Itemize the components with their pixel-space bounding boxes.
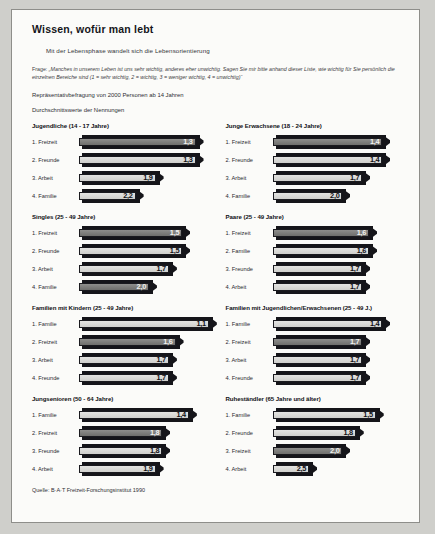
chart-row: 1. Freizeit1,6 [226,226,410,241]
chart-row-label: 1. Familie [32,321,79,327]
chart-group-title: Familien mit Kindern (25 - 49 Jahre) [32,304,216,311]
chart-bar: 1,7 [273,372,363,384]
sample-note: Repräsentativbefragung von 2000 Personen… [32,92,405,98]
chart-bar: 1,7 [79,372,169,384]
chart-bar-face [79,356,169,364]
chart-row-label: 4. Familie [32,193,79,199]
chart-bar-face [79,320,209,328]
chart-bar-arrow-tip [162,444,170,458]
chart-bar-value: 1,3 [183,138,192,145]
chart-bar-value: 1,7 [157,374,166,381]
chart-grid: Jugendliche (14 - 17 Jahre)1. Freizeit1,… [12,122,419,477]
chart-row: 2. Freunde1,8 [226,426,410,441]
chart-row: 2. Freizeit1,8 [32,426,216,441]
chart-bar: 1,6 [79,336,176,348]
chart-group: Paare (25 - 49 Jahre)1. Freizeit1,62. Fa… [226,213,410,295]
page-subtitle: Mit der Lebensphase wandelt sich die Leb… [46,47,405,54]
chart-bar: 1,9 [79,172,156,184]
chart-bar: 1,3 [79,154,196,166]
chart-bar-track: 1,8 [79,444,216,459]
chart-bar-value: 1,4 [370,156,379,163]
chart-bar-face [273,356,363,364]
chart-group: Jugendliche (14 - 17 Jahre)1. Freizeit1,… [32,122,216,204]
chart-bar-face [79,156,196,164]
chart-bar-arrow-tip [356,426,364,440]
chart-bar-arrow-tip [362,371,370,385]
chart-bar-value: 1,7 [350,374,359,381]
chart-group-title: Jugendliche (14 - 17 Jahre) [32,122,216,129]
chart-row: 3. Freunde1,8 [32,444,216,459]
chart-group: Familien mit Jugendlichen/Erwachsenen (2… [226,304,410,386]
header: Wissen, wofür man lebt Mit der Lebenspha… [12,10,419,113]
chart-bar: 1,8 [79,427,162,439]
chart-bar: 2,0 [79,281,149,293]
chart-row-label: 1. Familie [226,321,273,327]
chart-row-label: 1. Freizeit [32,139,79,145]
chart-row-label: 3. Freunde [226,266,273,272]
chart-bar-value: 1,7 [350,174,359,181]
chart-bar-value: 2,0 [330,192,339,199]
chart-row-label: 2. Freizeit [226,339,273,345]
chart-bar: 1,7 [79,263,169,275]
chart-bar-track: 1,4 [273,135,410,150]
page-title: Wissen, wofür man lebt [32,23,405,35]
chart-bar-arrow-tip [382,135,390,149]
chart-bar-arrow-tip [362,353,370,367]
chart-bar-arrow-tip [382,317,390,331]
chart-bar: 1,8 [79,445,162,457]
chart-group: Singles (25 - 49 Jahre)1. Freizeit1,52. … [32,213,216,295]
chart-row-label: 2. Freizeit [32,339,79,345]
chart-row-label: 1. Familie [226,412,273,418]
chart-bar: 1,4 [273,154,383,166]
chart-bar-track: 1,7 [273,335,410,350]
chart-group-title: Junge Erwachsene (18 - 24 Jahre) [226,122,410,129]
chart-row: 4. Freunde1,7 [226,371,410,386]
chart-bar-track: 1,9 [79,462,216,477]
chart-bar: 1,5 [273,409,376,421]
chart-group-rows: 1. Familie1,42. Freizeit1,83. Freunde1,8… [32,408,216,477]
chart-bar-value: 1,3 [183,156,192,163]
chart-bar-track: 1,8 [79,426,216,441]
chart-bar-face [273,247,370,255]
chart-bar: 1,6 [273,227,370,239]
chart-bar: 1,7 [79,354,169,366]
chart-row-label: 4. Familie [32,284,79,290]
chart-bar: 2,5 [273,463,310,475]
chart-bar-value: 1,9 [143,465,152,472]
chart-row-label: 4. Arbeit [32,466,79,472]
chart-bar-arrow-tip [369,226,377,240]
chart-bar-track: 1,4 [273,153,410,168]
chart-row: 4. Familie2,0 [226,189,410,204]
chart-bar-track: 1,1 [79,317,216,332]
chart-bar-face [273,320,383,328]
chart-bar: 1,7 [273,336,363,348]
chart-bar-value: 2,2 [123,192,132,199]
chart-bar-value: 2,0 [330,447,339,454]
chart-bar-value: 1,8 [150,429,159,436]
chart-bar-arrow-tip [362,335,370,349]
chart-bar-track: 2,2 [79,189,216,204]
chart-bar-track: 1,4 [273,317,410,332]
chart-bar-arrow-tip [362,262,370,276]
chart-bar-face [273,338,363,346]
chart-row: 3. Arbeit1,7 [226,171,410,186]
chart-row-label: 1. Freizeit [32,230,79,236]
chart-bar-arrow-tip [169,262,177,276]
chart-bar-track: 1,3 [79,153,216,168]
chart-bar-arrow-tip [169,353,177,367]
chart-row: 2. Freizeit1,6 [32,335,216,350]
chart-bar: 1,5 [79,245,182,257]
chart-bar-face [79,374,169,382]
chart-bar-track: 1,6 [79,335,216,350]
chart-row: 1. Familie1,1 [32,317,216,332]
chart-group-title: Singles (25 - 49 Jahre) [32,213,216,220]
chart-bar-face [273,174,363,182]
chart-row-label: 2. Freunde [32,248,79,254]
chart-bar-value: 1,6 [357,229,366,236]
chart-row-label: 2. Freunde [226,157,273,163]
chart-row-label: 4. Freunde [32,375,79,381]
chart-bar: 1,1 [79,318,209,330]
chart-row: 1. Freizeit1,3 [32,135,216,150]
chart-row-label: 3. Arbeit [226,175,273,181]
chart-row: 4. Familie2,2 [32,189,216,204]
